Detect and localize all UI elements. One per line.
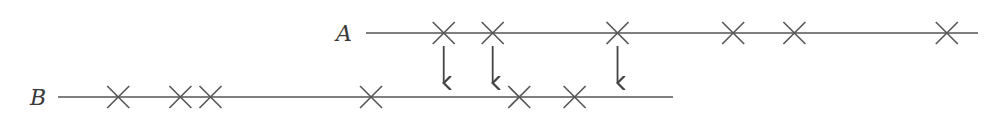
line-b-label: B: [29, 85, 46, 110]
diagram: A B: [0, 0, 1005, 122]
line-a-label: A: [334, 21, 352, 46]
